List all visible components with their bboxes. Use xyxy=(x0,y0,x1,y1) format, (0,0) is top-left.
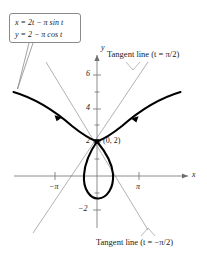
callout-leader xyxy=(18,43,34,89)
node-point-marker xyxy=(95,139,100,144)
tangent-line-bottom-label: Tangent line (t = −π/2) xyxy=(96,238,173,247)
x-axis-label: x xyxy=(192,171,196,179)
tangent-line-negative xyxy=(33,62,148,233)
equation-line-y: y = 2 − π cos t xyxy=(15,29,76,41)
y-tick-label-6: 6 xyxy=(86,70,90,78)
curve-right-branch xyxy=(97,92,181,142)
x-axis-arrow xyxy=(182,173,188,178)
curve-loop xyxy=(84,142,113,199)
y-axis-arrow xyxy=(94,55,99,61)
equation-line-x: x = 2t − π sin t xyxy=(15,17,76,29)
equation-callout-box: x = 2t − π sin t y = 2 − π cos t xyxy=(9,13,81,43)
y-axis-label: y xyxy=(101,44,105,52)
y-tick-label-neg-2: −2 xyxy=(78,205,87,213)
tangent-bottom-leader xyxy=(141,228,155,236)
tangent-top-leader xyxy=(126,62,140,70)
x-tick-label-pi: π xyxy=(136,183,140,191)
x-tick-label-neg-pi: −π xyxy=(49,183,58,191)
node-point-label: (0, 2) xyxy=(103,137,120,145)
tangent-line-top-label: Tangent line (t = π/2) xyxy=(107,50,179,59)
y-tick-label-2: 2 xyxy=(86,137,90,145)
y-tick-label-4: 4 xyxy=(86,104,90,112)
